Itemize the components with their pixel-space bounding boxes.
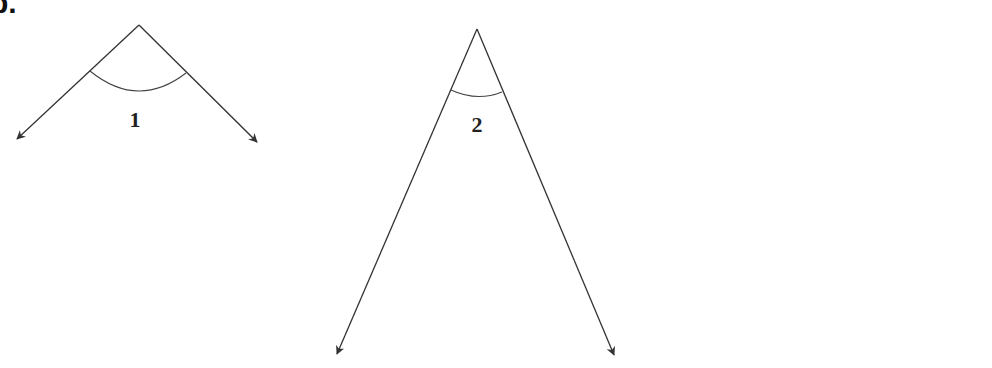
angle-2: 2: [337, 29, 614, 355]
angle-1-arc: [90, 71, 186, 91]
angle-1: 1: [17, 25, 257, 142]
angles-diagram: 1 2: [0, 0, 992, 368]
angle-1-left-ray: [17, 25, 139, 139]
angle-2-right-ray: [477, 29, 614, 355]
angle-1-label: 1: [130, 107, 141, 132]
angle-1-right-ray: [139, 25, 257, 142]
angle-2-arc: [451, 90, 502, 97]
angle-2-left-ray: [337, 29, 477, 354]
angle-2-label: 2: [472, 112, 483, 137]
